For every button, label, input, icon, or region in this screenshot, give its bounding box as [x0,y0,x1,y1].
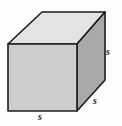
edge-label-depth: s [93,96,97,106]
edge-label-right: s [106,47,110,57]
cube-front-face [8,44,77,111]
edge-label-front: s [38,112,42,122]
cube-figure: s s s [0,0,122,126]
cube-illustration [0,0,122,126]
